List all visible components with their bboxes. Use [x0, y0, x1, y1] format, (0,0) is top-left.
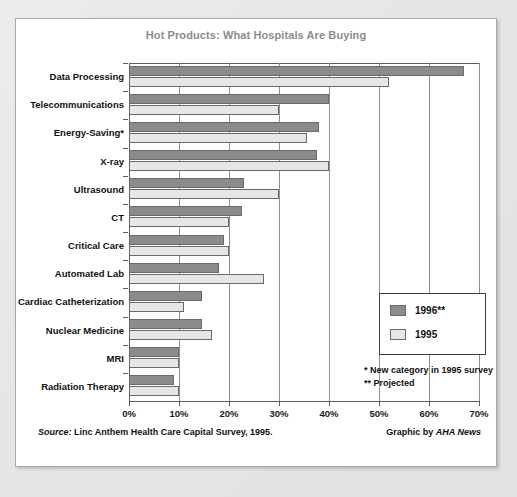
legend-item-1996: 1996**	[390, 305, 445, 316]
source-label: Source:	[38, 427, 72, 437]
category-label-xray: X-ray	[16, 156, 124, 167]
footnote-projected: ** Projected	[364, 377, 499, 390]
bar-1996-telecommunications	[129, 94, 329, 104]
category-label-cardiaccatheterization: Cardiac Catheterization	[16, 296, 124, 307]
source-note: Source: Linc Anthem Health Care Capital …	[38, 427, 273, 437]
legend-item-1995: 1995	[390, 329, 437, 340]
category-axis-labels: Data ProcessingTelecommunicationsEnergy-…	[16, 63, 124, 401]
bar-1996-dataprocessing	[129, 66, 464, 76]
category-label-nuclearmedicine: Nuclear Medicine	[16, 325, 124, 336]
category-tick	[123, 260, 128, 261]
bar-group	[129, 119, 479, 147]
bar-1996-energysaving	[129, 122, 319, 132]
x-tick-label-60%: 60%	[419, 408, 438, 419]
category-label-automatedlab: Automated Lab	[16, 268, 124, 279]
legend: 1996** 1995	[379, 293, 486, 355]
category-tick	[123, 204, 128, 205]
bar-1996-radiationtherapy	[129, 375, 174, 385]
legend-swatch-1996	[390, 305, 406, 316]
x-tick-label-20%: 20%	[219, 408, 238, 419]
category-label-criticalcare: Critical Care	[16, 240, 124, 251]
bar-1996-nuclearmedicine	[129, 319, 202, 329]
bar-group	[129, 148, 479, 176]
bar-1995-telecommunications	[129, 105, 279, 115]
bar-1996-mri	[129, 347, 179, 357]
x-tick-label-40%: 40%	[319, 408, 338, 419]
bar-1995-ultrasound	[129, 189, 279, 199]
bar-1995-energysaving	[129, 133, 307, 143]
bar-1995-ct	[129, 217, 229, 227]
chart-footer: Source: Linc Anthem Health Care Capital …	[16, 427, 498, 447]
bar-group	[129, 176, 479, 204]
category-label-radiationtherapy: Radiation Therapy	[16, 381, 124, 392]
category-label-telecommunications: Telecommunications	[16, 99, 124, 110]
bar-1995-nuclearmedicine	[129, 330, 212, 340]
bar-1996-xray	[129, 150, 317, 160]
legend-swatch-1995	[390, 329, 406, 340]
bar-1996-criticalcare	[129, 235, 224, 245]
graphic-credit: Graphic by AHA News	[386, 427, 481, 437]
bar-1995-radiationtherapy	[129, 386, 179, 396]
page-title: Hot Products: What Hospitals Are Buying	[16, 29, 496, 41]
category-tick	[123, 288, 128, 289]
x-tick-label-50%: 50%	[369, 408, 388, 419]
bar-group	[129, 63, 479, 91]
category-label-mri: MRI	[16, 353, 124, 364]
bar-group	[129, 260, 479, 288]
bar-1995-dataprocessing	[129, 77, 389, 87]
bar-1996-cardiaccatheterization	[129, 291, 202, 301]
bar-group	[129, 232, 479, 260]
x-tick-60%	[429, 401, 430, 406]
page-background: Hot Products: What Hospitals Are Buying …	[0, 0, 517, 497]
credit-name: AHA News	[436, 427, 481, 437]
x-tick-label-70%: 70%	[469, 408, 488, 419]
category-label-energysaving: Energy-Saving*	[16, 127, 124, 138]
credit-prefix: Graphic by	[386, 427, 433, 437]
bar-1996-automatedlab	[129, 263, 219, 273]
x-tick-0%	[129, 401, 130, 406]
category-label-dataprocessing: Data Processing	[16, 71, 124, 82]
category-tick	[123, 373, 128, 374]
category-tick	[123, 63, 128, 64]
bar-group	[129, 91, 479, 119]
bar-1995-mri	[129, 358, 179, 368]
footnotes: * New category in 1995 survey ** Project…	[364, 364, 499, 390]
category-tick	[123, 91, 128, 92]
legend-label-1996: 1996**	[415, 305, 445, 316]
category-tick	[123, 176, 128, 177]
x-tick-70%	[479, 401, 480, 406]
legend-label-1995: 1995	[415, 329, 437, 340]
category-tick	[123, 119, 128, 120]
x-tick-20%	[229, 401, 230, 406]
x-tick-50%	[379, 401, 380, 406]
bar-1995-xray	[129, 161, 329, 171]
bar-1996-ct	[129, 206, 242, 216]
bar-1995-automatedlab	[129, 274, 264, 284]
bar-group	[129, 204, 479, 232]
x-tick-40%	[329, 401, 330, 406]
bar-1995-cardiaccatheterization	[129, 302, 184, 312]
category-label-ultrasound: Ultrasound	[16, 184, 124, 195]
x-tick-30%	[279, 401, 280, 406]
x-tick-label-30%: 30%	[269, 408, 288, 419]
chart-card: Hot Products: What Hospitals Are Buying …	[15, 18, 497, 467]
bar-1995-criticalcare	[129, 246, 229, 256]
category-tick	[123, 317, 128, 318]
category-tick	[123, 148, 128, 149]
x-tick-10%	[179, 401, 180, 406]
x-tick-label-10%: 10%	[169, 408, 188, 419]
category-label-ct: CT	[16, 212, 124, 223]
x-tick-label-0%: 0%	[122, 408, 136, 419]
category-tick	[123, 345, 128, 346]
source-text: Linc Anthem Health Care Capital Survey, …	[74, 427, 273, 437]
footnote-new-category: * New category in 1995 survey	[364, 364, 499, 377]
x-axis-line	[129, 401, 479, 402]
bar-1996-ultrasound	[129, 178, 244, 188]
category-tick	[123, 232, 128, 233]
